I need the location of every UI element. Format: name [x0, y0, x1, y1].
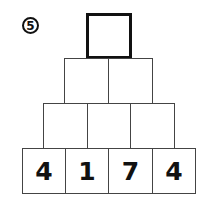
- pyramid-row2-cell-1[interactable]: [64, 58, 109, 104]
- pyramid-base-cell-3: 7: [108, 148, 153, 194]
- pyramid-row3-cell-1[interactable]: [43, 103, 88, 149]
- pyramid-row3-cell-3[interactable]: [130, 103, 175, 149]
- pyramid-row2-cell-2[interactable]: [108, 58, 153, 104]
- pyramid-base-cell-2: 1: [65, 148, 109, 194]
- pyramid-base-cell-4: 4: [152, 148, 196, 194]
- problem-number-badge: 5: [22, 17, 39, 34]
- pyramid-base-cell-1: 4: [22, 148, 66, 194]
- pyramid-top-cell[interactable]: [86, 13, 132, 59]
- pyramid-row3-cell-2[interactable]: [87, 103, 132, 149]
